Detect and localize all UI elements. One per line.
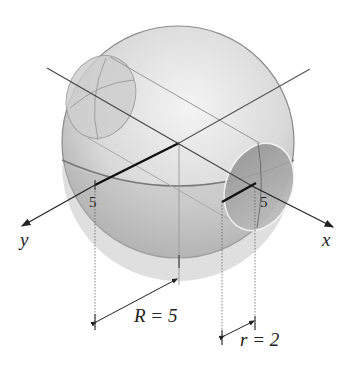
y-tick-label: 5 (89, 194, 97, 210)
x-tick-label: 5 (260, 194, 268, 210)
sphere-diagram: 5 5 y x R = 5 r = 2 (0, 0, 356, 371)
big-radius-label: R = 5 (133, 305, 177, 326)
y-axis-label: y (18, 229, 29, 250)
small-radius-label: r = 2 (240, 329, 280, 350)
x-axis-label: x (321, 229, 331, 250)
